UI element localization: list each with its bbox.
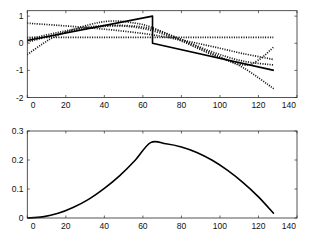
x-tick-label: 140 [282, 221, 296, 231]
x-tick-label: 20 [61, 221, 71, 231]
dotted-series-line [27, 21, 274, 89]
bottom-axes: 0204060801001201400.30.20.10 [12, 126, 297, 231]
x-tick-label: 120 [251, 100, 265, 110]
axes-frame [27, 11, 297, 98]
x-tick-label: 20 [61, 100, 71, 110]
figure: 02040608010012014010-1-2 020406080100120… [0, 0, 313, 239]
y-tick-label: 0 [19, 213, 24, 223]
y-tick-label: 0.3 [12, 126, 24, 136]
x-tick-label: 40 [100, 100, 110, 110]
x-tick-label: 40 [100, 221, 110, 231]
x-tick-label: 60 [138, 221, 148, 231]
y-tick-label: 1 [19, 11, 24, 21]
solid-series-line [27, 16, 274, 70]
x-tick-label: 120 [251, 221, 265, 231]
top-axes: 02040608010012014010-1-2 [16, 11, 297, 110]
dotted-series-line [27, 25, 274, 65]
x-tick-label: 0 [31, 100, 36, 110]
y-tick-label: -2 [16, 93, 24, 103]
x-tick-label: 100 [213, 100, 227, 110]
x-tick-label: 80 [177, 100, 187, 110]
x-tick-label: 60 [138, 100, 148, 110]
x-tick-label: 100 [213, 221, 227, 231]
y-tick-label: 0.1 [12, 184, 24, 194]
x-tick-label: 140 [282, 100, 296, 110]
x-tick-label: 0 [31, 221, 36, 231]
y-tick-label: 0.2 [12, 155, 24, 165]
y-tick-label: 0 [19, 38, 24, 48]
x-tick-label: 80 [177, 221, 187, 231]
solid-series-line [27, 141, 274, 218]
axes-frame [27, 131, 297, 218]
y-tick-label: -1 [16, 65, 24, 75]
